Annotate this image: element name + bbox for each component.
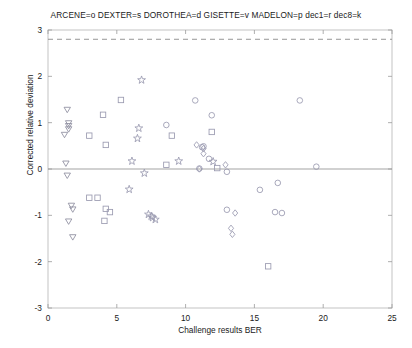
x-tick-label-10: 10 (172, 313, 200, 323)
y-tick-label--3: -3 (18, 303, 42, 313)
data-point (230, 231, 235, 237)
data-point (95, 195, 100, 200)
data-point (65, 219, 71, 224)
x-tick-label-20: 20 (309, 313, 337, 323)
data-point (257, 187, 263, 193)
data-point (87, 195, 92, 200)
data-point (209, 157, 217, 164)
data-point (135, 124, 143, 131)
data-point (228, 225, 233, 231)
data-point (175, 157, 183, 164)
data-point (102, 218, 107, 223)
series-gisette (61, 107, 76, 240)
data-point (194, 142, 199, 148)
x-tick-label-25: 25 (378, 313, 406, 323)
data-point (87, 133, 92, 138)
data-point (134, 134, 142, 141)
plot-canvas (0, 0, 412, 348)
y-tick-label-3: 3 (18, 25, 42, 35)
data-point (265, 264, 270, 269)
data-point (206, 156, 212, 162)
x-axis-label: Challenge results BER (48, 325, 392, 335)
data-point (279, 210, 285, 216)
data-point (103, 206, 108, 211)
data-point (140, 169, 148, 176)
data-markers (61, 76, 319, 269)
x-tick-label-15: 15 (240, 313, 268, 323)
y-tick-label-1: 1 (18, 118, 42, 128)
data-point (209, 112, 215, 118)
series-dexter (87, 97, 271, 269)
data-point (224, 207, 230, 213)
data-point (224, 169, 230, 175)
data-point (61, 132, 67, 137)
data-point (103, 142, 108, 147)
series-arcene (164, 98, 320, 216)
data-point (64, 107, 70, 112)
data-point (68, 203, 74, 208)
data-point (192, 98, 198, 104)
y-tick-label--2: -2 (18, 257, 42, 267)
data-point (164, 122, 170, 128)
data-point (64, 173, 70, 178)
scatter-plot-figure: ARCENE=o DEXTER=s DOROTHEA=d GISETTE=v M… (0, 0, 412, 348)
reference-lines (48, 39, 392, 169)
data-point (223, 162, 228, 168)
x-tick-label-5: 5 (103, 313, 131, 323)
data-point (125, 185, 133, 192)
data-point (63, 161, 69, 166)
data-point (138, 76, 146, 83)
data-point (297, 98, 303, 104)
data-point (107, 209, 112, 214)
data-point (209, 129, 214, 134)
y-tick-label-2: 2 (18, 71, 42, 81)
data-point (215, 165, 220, 170)
y-tick-label--1: -1 (18, 210, 42, 220)
series-dorothea (194, 142, 238, 238)
data-point (164, 162, 169, 167)
data-point (275, 180, 281, 186)
x-tick-label-0: 0 (34, 313, 62, 323)
data-point (169, 133, 174, 138)
data-point (272, 209, 278, 215)
data-point (70, 207, 76, 212)
data-point (233, 210, 238, 216)
data-point (100, 112, 105, 117)
data-point (118, 97, 123, 102)
data-point (70, 235, 76, 240)
y-tick-label-0: 0 (18, 164, 42, 174)
data-point (128, 157, 136, 164)
